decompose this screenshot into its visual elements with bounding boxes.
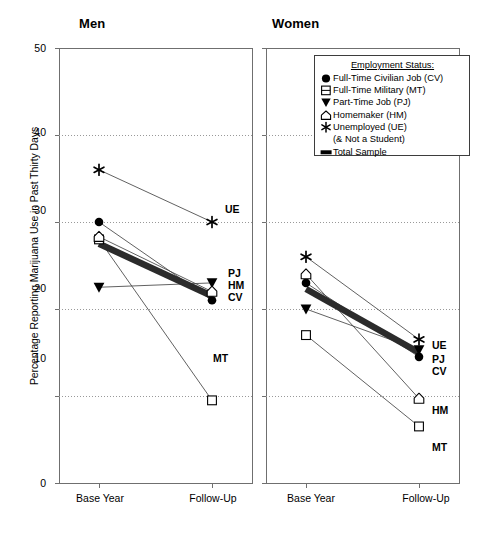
data-label-men-pj: PJ xyxy=(228,267,241,279)
legend-label-mt: Full-Time Military (MT) xyxy=(333,85,426,95)
legend-label-hm: Homemaker (HM) xyxy=(333,110,407,120)
data-label-men-cv: CV xyxy=(228,291,243,303)
legend-item-total-sample[interactable]: Total Sample xyxy=(320,145,465,157)
legend-label-pj: Part-Time Job (PJ) xyxy=(333,97,411,107)
open-house-marker xyxy=(320,109,332,121)
data-label-men-mt: MT xyxy=(213,352,228,364)
data-label-women-hm: HM xyxy=(432,404,448,416)
filled-circle-marker xyxy=(320,72,332,84)
legend-label-total-sample: Total Sample xyxy=(333,147,387,157)
legend-item-pj[interactable]: Part-Time Job (PJ) xyxy=(320,96,465,108)
star-marker xyxy=(320,121,332,133)
legend-item-cv[interactable]: Full-Time Civilian Job (CV) xyxy=(320,72,465,84)
legend-sublabel-ue: (& Not a Student) xyxy=(320,133,465,145)
data-label-men-ue: UE xyxy=(225,203,240,215)
data-label-women-pj: PJ xyxy=(432,353,445,365)
data-label-men-hm: HM xyxy=(228,279,244,291)
data-label-women-mt: MT xyxy=(432,441,447,453)
figure-canvas: Men Women Percentage Reporting Marijuana… xyxy=(0,0,485,539)
legend-item-ue[interactable]: Unemployed (UE) xyxy=(320,121,465,133)
legend-item-hm[interactable]: Homemaker (HM) xyxy=(320,109,465,121)
legend-item-mt[interactable]: Full-Time Military (MT) xyxy=(320,84,465,96)
legend-label-cv: Full-Time Civilian Job (CV) xyxy=(333,73,443,83)
filled-triangle-down-marker xyxy=(320,96,332,108)
data-label-women-cv: CV xyxy=(432,365,447,377)
data-label-women-ue: UE xyxy=(432,339,447,351)
open-square-marker xyxy=(320,84,332,96)
thick-bar-marker xyxy=(320,146,332,158)
legend-title: Employment Status: xyxy=(320,60,465,70)
legend-box: Employment Status: Full-Time Civilian Jo… xyxy=(314,55,470,156)
legend-label-ue: Unemployed (UE) xyxy=(333,122,407,132)
